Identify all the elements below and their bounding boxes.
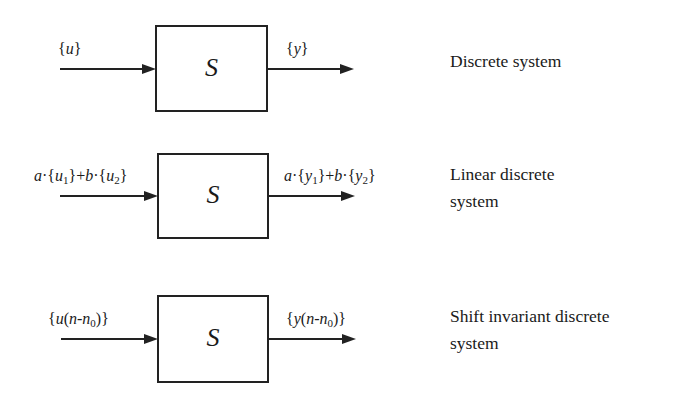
input-signal-label: {u(n-n0)} — [48, 310, 109, 329]
system-block-label: S — [159, 323, 267, 353]
var-n: n — [69, 310, 77, 327]
description-line: system — [450, 330, 609, 357]
output-arrow-line — [269, 338, 345, 340]
input-arrowhead-icon — [144, 334, 158, 344]
system-block: S — [157, 295, 269, 383]
signal-y: y — [294, 310, 301, 327]
signal-u: u — [56, 310, 64, 327]
brace-close: } — [101, 310, 109, 327]
shift-invariant-discrete-system-diagram: {u(n-n0)} S {y(n-n0)} Shift invariant di… — [0, 0, 695, 395]
brace-open: { — [286, 310, 294, 327]
output-arrowhead-icon — [342, 334, 356, 344]
brace-open: { — [48, 310, 56, 327]
input-arrow-line — [61, 338, 147, 340]
var-n: n — [306, 310, 314, 327]
brace-close: } — [338, 310, 346, 327]
description-line: Shift invariant discrete — [450, 303, 609, 330]
output-signal-label: {y(n-n0)} — [286, 310, 346, 329]
diagram-description: Shift invariant discrete system — [450, 303, 609, 357]
